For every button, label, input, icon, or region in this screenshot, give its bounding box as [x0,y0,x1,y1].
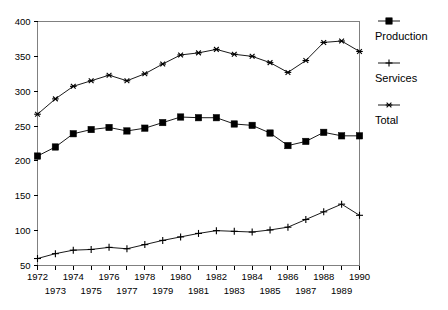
legend-item-total[interactable]: Total [375,103,400,126]
series-total-asterisk-marker [177,53,184,58]
legend-production-square-marker [386,18,392,24]
chart-canvas: 40035030025020015010050 1972197419761978… [0,0,448,310]
x-tick-label-top: 1980 [170,271,191,282]
chart-legend: ProductionServicesTotal [375,18,428,126]
legend-item-production[interactable]: Production [375,18,428,42]
x-tick-label-top: 1984 [242,271,263,282]
x-tick-label-bottom: 1983 [224,285,245,296]
series-services-plus-marker [34,255,41,262]
series-services-plus-marker [213,227,220,234]
legend-label-services: Services [375,72,418,84]
series-production-square-marker [177,114,183,120]
x-tick-label-bottom: 1979 [152,285,173,296]
series-production-square-marker [160,119,166,125]
series-services-plus-marker [338,201,345,208]
series-production-square-marker [338,133,344,139]
series-production-square-marker [285,142,291,148]
x-tick-label-top: 1982 [206,271,227,282]
series-services [34,201,363,262]
series-production-square-marker [142,125,148,131]
x-tick-label-bottom: 1985 [259,285,280,296]
series-production-square-marker [88,126,94,132]
series-services-plus-marker [123,245,130,252]
x-tick-label-top: 1976 [98,271,119,282]
series-total-asterisk-marker [213,47,220,52]
series-services-plus-marker [177,233,184,240]
y-tick-label: 350 [15,51,31,62]
x-tick-label-top: 1972 [27,271,48,282]
series-total-asterisk-marker [88,78,95,83]
series-total-asterisk-marker [142,71,149,76]
series-total-asterisk-marker [267,60,274,65]
x-tick-label-bottom: 1989 [331,285,352,296]
plot-border [38,22,360,266]
y-tick-label: 300 [15,86,31,97]
series-services-plus-marker [88,246,95,253]
series-total-asterisk-marker [70,84,77,89]
legend-label-total: Total [375,114,398,126]
series-production-square-marker [213,115,219,121]
series-total-asterisk-marker [338,39,345,44]
series-services-plus-marker [141,241,148,248]
x-tick-label-top: 1978 [134,271,155,282]
series-services-plus-marker [284,224,291,231]
series-production-square-marker [34,153,40,159]
series-services-plus-marker [52,250,59,257]
series-production-square-marker [70,131,76,137]
legend-services-plus-marker [386,60,393,67]
y-axis-ticks [34,22,38,266]
series-services-plus-marker [159,237,166,244]
x-axis-labels: 1972197419761978198019821984198619881990… [27,271,370,296]
y-tick-label: 50 [20,260,31,271]
series-production-square-marker [321,129,327,135]
series-total-asterisk-marker [285,70,292,75]
series-services-plus-marker [70,247,77,254]
legend-item-services[interactable]: Services [375,60,418,85]
y-tick-label: 150 [15,190,31,201]
series-services-plus-marker [302,216,309,223]
series-total [34,39,363,117]
series-total-asterisk-marker [159,62,166,67]
series-total-asterisk-marker [124,78,131,83]
series-production-square-marker [249,122,255,128]
plot-frame [38,22,360,266]
series-production-square-marker [52,144,58,150]
data-series-group [34,39,363,262]
series-total-asterisk-marker [195,50,202,55]
x-tick-label-bottom: 1987 [295,285,316,296]
series-total-asterisk-marker [231,52,238,57]
series-total-asterisk-marker [106,73,113,78]
x-tick-label-top: 1974 [63,271,84,282]
series-production-square-marker [267,130,273,136]
y-tick-label: 200 [15,155,31,166]
x-tick-label-top: 1990 [349,271,370,282]
series-production-square-marker [106,124,112,130]
y-tick-label: 100 [15,225,31,236]
series-services-plus-marker [249,229,256,236]
series-production-square-marker [356,133,362,139]
legend-label-production: Production [375,30,428,42]
series-total-asterisk-marker [303,58,310,63]
series-production [34,114,362,159]
series-production-square-marker [195,115,201,121]
x-tick-label-bottom: 1981 [188,285,209,296]
series-total-line [38,41,360,114]
y-tick-label: 250 [15,121,31,132]
series-total-asterisk-marker [249,54,256,59]
series-services-plus-marker [267,226,274,233]
y-tick-label: 400 [15,16,31,27]
series-services-plus-marker [195,230,202,237]
x-tick-label-bottom: 1975 [81,285,102,296]
legend-total-asterisk-marker [386,103,393,108]
x-tick-label-bottom: 1977 [116,285,137,296]
x-tick-label-top: 1986 [277,271,298,282]
series-total-asterisk-marker [320,40,327,45]
series-total-asterisk-marker [52,97,59,102]
x-tick-label-bottom: 1973 [45,285,66,296]
series-services-plus-marker [356,212,363,219]
series-services-plus-marker [106,244,113,251]
line-chart: 40035030025020015010050 1972197419761978… [0,0,448,310]
series-production-square-marker [231,121,237,127]
series-production-line [38,117,360,156]
x-tick-label-top: 1988 [313,271,334,282]
